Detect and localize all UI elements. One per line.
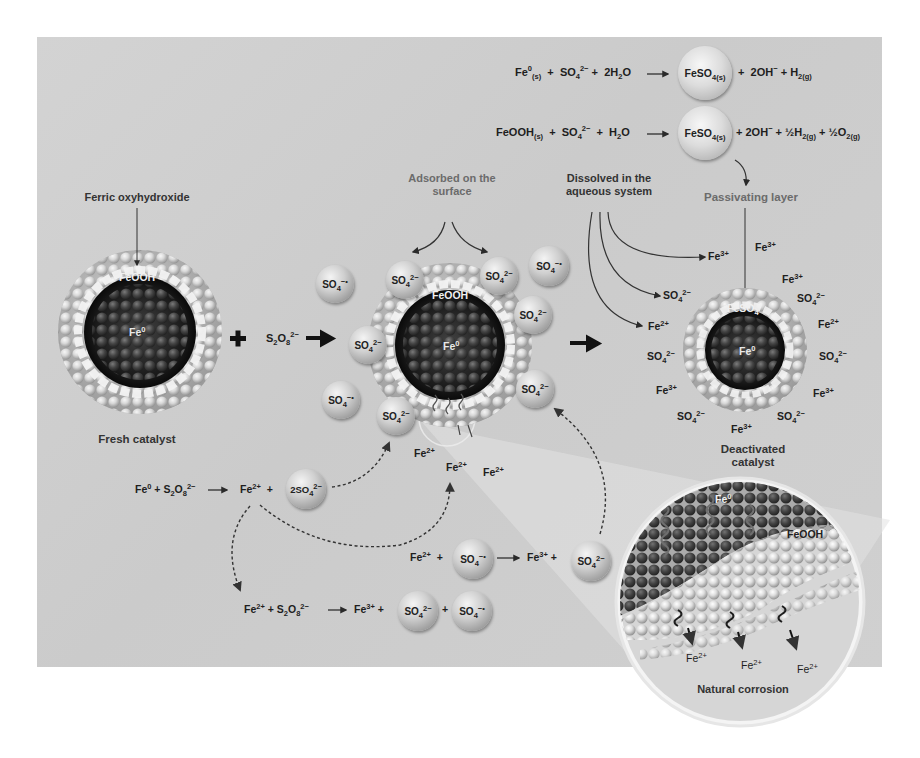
released-fe2-ion: Fe2+ — [483, 466, 504, 478]
equation-fe0-products: + 2OH− + H2(g) — [738, 66, 812, 78]
sulfate-radical-sphere: SO4−• — [316, 265, 354, 303]
two-sulfate-sphere: 2SO42− — [286, 469, 326, 509]
equation-fe2-radical-products: Fe3+ + — [527, 551, 557, 563]
deactivated-shell-label: FeSO4 — [727, 302, 759, 314]
plus-sign — [230, 331, 246, 347]
sulfate-sphere: SO42− — [398, 591, 438, 631]
equation-feooh-sulfate: FeOOH(s) + SO42− + H2O — [496, 126, 630, 138]
label-adsorbed-on-surface: Adsorbed on thesurface — [408, 172, 495, 197]
label-dissolved-aqueous: Dissolved in theaqueous system — [566, 172, 652, 197]
sulfate-sphere: SO42− — [514, 296, 552, 334]
equation-feooh-products: + 2OH− + ½H2(g) + ½O2(g) — [736, 126, 860, 138]
graphics-layer — [0, 0, 920, 758]
ion-fe3: Fe3+ — [656, 384, 677, 396]
ion-so4: SO42− — [819, 350, 847, 362]
active-shell-label: FeOOH — [432, 289, 468, 301]
label-passivating-layer: Passivating layer — [704, 191, 798, 204]
ion-so4: SO42− — [797, 292, 825, 304]
ion-so4: SO42− — [647, 350, 675, 362]
ion-fe3: Fe3+ — [755, 241, 776, 253]
equation-fe2-persulfate: Fe2+ + S2O82− — [244, 603, 309, 615]
ion-fe2: Fe2+ — [818, 318, 839, 330]
active-core-label: Fe0 — [443, 340, 459, 352]
sulfate-sphere: SO42− — [571, 541, 611, 581]
dissolved-arrow-fe3 — [608, 212, 705, 257]
figure-canvas: Fe0(s) + SO42− + 2H2O FeSO4(s) + 2OH− + … — [0, 0, 920, 758]
feso4-sphere-eq2: FeSO4(s) — [678, 106, 732, 160]
ion-so4: SO42− — [677, 410, 705, 422]
persulfate-reactant: S2O82− — [266, 332, 299, 344]
sulfate-sphere: SO42− — [386, 261, 424, 299]
ion-fe3: Fe3+ — [731, 423, 752, 435]
label-deactivated-catalyst: Deactivatedcatalyst — [721, 443, 786, 469]
ion-fe3: Fe3+ — [782, 273, 803, 285]
equation-fe2-persulfate-products: Fe3+ + — [354, 603, 384, 615]
sulfate-radical-sphere: SO4−• — [322, 381, 360, 419]
sulfate-sphere: SO42− — [377, 397, 415, 435]
label-fresh-catalyst: Fresh catalyst — [98, 433, 175, 446]
ion-so4: SO42− — [663, 289, 691, 301]
ion-fe3: Fe3+ — [813, 387, 834, 399]
released-fe2-ion: Fe2+ — [446, 461, 467, 473]
sulfate-radical-sphere: SO4−• — [452, 591, 492, 631]
feso4-to-passivating-arrow — [735, 160, 746, 185]
ion-fe2: Fe2+ — [648, 320, 669, 332]
fresh-shell-label: FeOOH — [119, 271, 155, 283]
inset-fe2-ion: Fe2+ — [686, 652, 707, 664]
fresh-core-label: Fe0 — [129, 326, 145, 338]
deactivated-core-label: Fe0 — [739, 345, 755, 357]
inset-shell-label: FeOOH — [787, 528, 823, 540]
dashed-arrow-so4-to-surface — [332, 443, 389, 487]
ion-fe3: Fe3+ — [708, 250, 729, 262]
label-natural-corrosion: Natural corrosion — [697, 683, 789, 696]
equation-fe2-radical: Fe2+ + — [410, 551, 443, 563]
dissolved-arrow-fe2 — [589, 212, 642, 326]
bold-arrow-1 — [306, 333, 332, 344]
label-ferric-oxyhydroxide: Ferric oxyhydroxide — [84, 191, 189, 204]
sulfate-radical-sphere: SO4−• — [453, 539, 493, 579]
equation-fe0-sulfate: Fe0(s) + SO42− + 2H2O — [515, 66, 631, 78]
sulfate-radical-sphere: SO4−• — [529, 246, 569, 286]
released-fe2-ion: Fe2+ — [414, 447, 435, 459]
sulfate-sphere: SO42− — [516, 370, 554, 408]
dashed-arrow-fe2-to-persulfate — [232, 506, 250, 590]
equation-fe0-persulfate-products: Fe2+ + — [240, 483, 273, 495]
sulfate-sphere: SO42− — [480, 257, 518, 295]
adsorbed-arrow-left — [413, 222, 445, 252]
inset-core-label: Fe0 — [715, 493, 731, 505]
inset-fe2-ion: Fe2+ — [741, 659, 762, 671]
adsorbed-arrow-right — [452, 222, 487, 252]
ion-so4: SO42− — [777, 410, 805, 422]
bold-arrow-2 — [570, 338, 598, 349]
equation-fe0-persulfate: Fe0 + S2O82− — [135, 483, 196, 495]
plus-sign-eq5: + — [442, 603, 448, 615]
inset-fe2-ion: Fe2+ — [797, 663, 818, 675]
sulfate-sphere: SO42− — [349, 326, 387, 364]
feso4-sphere-eq1: FeSO4(s) — [678, 46, 732, 100]
